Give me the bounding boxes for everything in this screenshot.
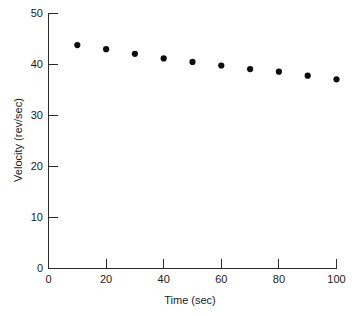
x-tick-label-20: 20 <box>100 273 112 285</box>
data-point <box>218 62 224 68</box>
x-tick-label-60: 60 <box>215 273 227 285</box>
data-point <box>189 59 195 65</box>
data-point <box>305 73 311 79</box>
data-point <box>333 76 339 82</box>
data-point <box>132 51 138 57</box>
y-tick-label-10: 10 <box>31 211 43 223</box>
x-tick-label-100: 100 <box>327 273 345 285</box>
y-tick-label-30: 30 <box>31 109 43 121</box>
data-point <box>74 42 80 48</box>
data-point <box>247 66 253 72</box>
y-tick-label-50: 50 <box>31 7 43 19</box>
data-point <box>103 46 109 52</box>
y-axis-title: Velocity (rev/sec) <box>12 98 24 182</box>
y-tick-label-0: 0 <box>37 262 43 274</box>
x-tick-label-80: 80 <box>273 273 285 285</box>
y-tick-label-20: 20 <box>31 160 43 172</box>
data-point <box>161 55 167 61</box>
y-tick-label-40: 40 <box>31 58 43 70</box>
x-axis-title: Time (sec) <box>164 294 216 306</box>
data-point <box>276 69 282 75</box>
x-tick-label-40: 40 <box>158 273 170 285</box>
scatter-plot: 50 40 30 20 10 0 0 20 40 60 80 100 Time … <box>0 0 361 316</box>
x-tick-label-0: 0 <box>45 273 51 285</box>
chart-figure: 50 40 30 20 10 0 0 20 40 60 80 100 Time … <box>0 0 361 316</box>
